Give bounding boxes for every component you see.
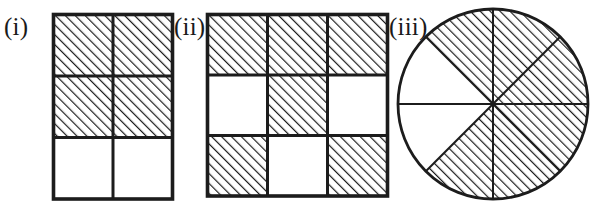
figure-label-i: (i) [4,14,28,39]
figure-ii-cell-r3c2-unshaded [268,136,328,197]
figure-i-cell-r2c1-shaded [54,76,114,138]
figure-ii-cell-r1c1-shaded [208,15,268,76]
figure-i-cell-r1c2-shaded [113,15,173,77]
figure-i-cell-r3c1-unshaded [54,138,114,200]
figure-i-cell-r2c2-shaded [113,76,173,138]
figure-i-rectangle-grid [51,12,175,202]
figure-i-cell-r1c1-shaded [54,15,114,77]
figure-label-ii: (ii) [174,14,205,39]
figure-ii-cell-r2c1-unshaded [208,75,268,136]
figure-ii-cell-r3c3-shaded [328,136,388,197]
figure-ii-cell-r2c2-shaded [268,75,328,136]
figure-ii-cell-r1c3-shaded [328,15,388,76]
figure-ii-cell-r2c3-unshaded [328,75,388,136]
figure-iii-svg [393,4,593,206]
figure-board: (i) (ii) (iii) [0,0,594,209]
figure-ii-rectangle-grid [205,12,391,202]
figure-i-cell-r3c2-unshaded [113,138,173,200]
figure-i-svg [51,12,175,202]
figure-ii-svg [205,12,391,202]
figure-iii-circle-sectors [393,4,593,206]
figure-ii-cell-r1c2-shaded [268,15,328,76]
figure-ii-cell-r3c1-shaded [208,136,268,197]
